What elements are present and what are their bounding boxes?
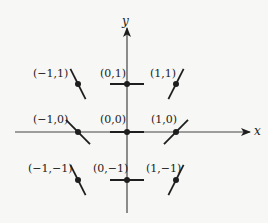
point-dot — [173, 129, 179, 135]
point-dot — [75, 81, 81, 87]
slope-field-diagram: y x (−1,1) (0,1) (1,1) (−1,0) (0,0) (1,0… — [0, 0, 268, 223]
point-label: (1,1) — [150, 68, 176, 79]
point-label: (−1,0) — [33, 114, 68, 125]
point-dot — [75, 177, 81, 183]
point-dot — [124, 129, 130, 135]
point-dot — [124, 81, 130, 87]
y-axis-label: y — [122, 15, 129, 27]
point-dot — [75, 129, 81, 135]
point-label: (0,0) — [100, 114, 126, 125]
point-label: (−1,1) — [33, 68, 68, 79]
point-label: (0,−1) — [93, 163, 128, 174]
point-dot — [173, 177, 179, 183]
point-label: (0,1) — [100, 68, 126, 79]
diagram-canvas — [0, 0, 268, 223]
point-label: (1,−1) — [146, 163, 181, 174]
point-dot — [173, 81, 179, 87]
point-dot — [124, 177, 130, 183]
x-axis-label: x — [254, 125, 261, 137]
point-label: (1,0) — [151, 114, 177, 125]
point-label: (−1,−1) — [28, 163, 73, 174]
